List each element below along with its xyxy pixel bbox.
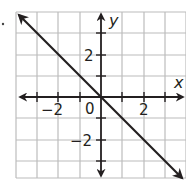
x-tick-label-pos2: 2 — [139, 101, 149, 119]
bullet-dot — [2, 23, 4, 25]
axes — [20, 14, 183, 176]
coordinate-plane: y x 0 −2 2 2 −2 — [0, 0, 186, 184]
y-axis-label: y — [108, 11, 119, 30]
origin-label: 0 — [85, 100, 95, 118]
y-tick-label-pos2: 2 — [84, 47, 94, 65]
x-tick-label-neg2: −2 — [41, 101, 63, 119]
y-tick-label-neg2: −2 — [70, 132, 92, 150]
x-axis-label: x — [173, 73, 184, 92]
